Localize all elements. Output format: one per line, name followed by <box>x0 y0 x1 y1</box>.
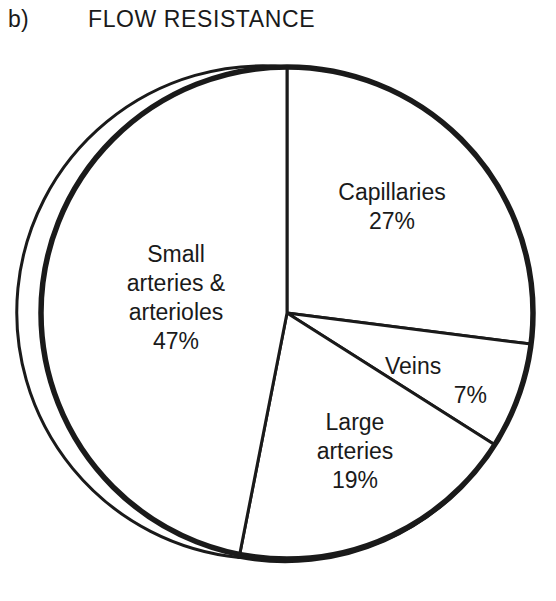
pie-chart-graphic <box>0 0 556 601</box>
slice-label-small-arteries-line2: arteries & <box>86 269 266 298</box>
slice-label-large-arteries: Large arteries 19% <box>290 408 420 495</box>
slice-label-veins-value: 7% <box>385 381 505 410</box>
slice-label-large-arteries-line2: arteries <box>290 437 420 466</box>
slice-label-veins: Veins 7% <box>385 352 505 410</box>
slice-label-large-arteries-value: 19% <box>290 466 420 495</box>
slice-label-large-arteries-line1: Large <box>290 408 420 437</box>
slice-label-small-arteries: Small arteries & arterioles 47% <box>86 240 266 356</box>
figure-container: b) FLOW RESISTANCE Capillaries 27% Small… <box>0 0 556 601</box>
slice-label-capillaries-value: 27% <box>302 207 482 236</box>
slice-label-veins-name: Veins <box>385 352 505 381</box>
slice-label-small-arteries-value: 47% <box>86 327 266 356</box>
slice-label-capillaries: Capillaries 27% <box>302 178 482 236</box>
slice-label-capillaries-name: Capillaries <box>302 178 482 207</box>
slice-label-small-arteries-line1: Small <box>86 240 266 269</box>
slice-label-small-arteries-line3: arterioles <box>86 298 266 327</box>
